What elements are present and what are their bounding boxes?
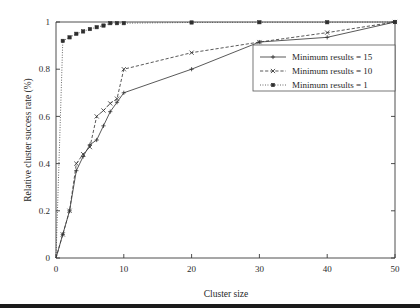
- data-marker-square: [102, 24, 105, 27]
- x-tick-label: 50: [391, 264, 401, 274]
- footer-band: [0, 304, 420, 308]
- x-tick-label: 30: [255, 264, 265, 274]
- y-tick-label: 0.2: [39, 206, 50, 216]
- data-marker-square: [326, 21, 329, 24]
- x-tick-label: 0: [54, 264, 59, 274]
- y-tick-label: 0.8: [39, 64, 51, 74]
- data-marker-square: [88, 27, 91, 30]
- data-marker-square: [75, 32, 78, 35]
- chart-legend: Minimum results = 15Minimum results = 10…: [253, 45, 395, 91]
- y-tick-label: 0: [46, 253, 51, 263]
- line-chart: 01020304050 00.20.40.60.81 Cluster size …: [0, 0, 420, 308]
- legend-label-2: Minimum results = 10: [292, 66, 373, 76]
- data-marker-square: [81, 30, 84, 33]
- y-axis-title: Relative cluster success rate (%): [23, 78, 34, 201]
- legend-label-3: Minimum results = 1: [292, 80, 368, 90]
- chart-figure: 01020304050 00.20.40.60.81 Cluster size …: [0, 0, 420, 308]
- x-tick-label: 20: [187, 264, 197, 274]
- data-marker-square: [95, 25, 98, 28]
- legend-label-1: Minimum results = 15: [292, 52, 373, 62]
- x-axis-title: Cluster size: [204, 289, 249, 299]
- data-marker-square: [122, 21, 125, 24]
- data-marker-square: [190, 21, 193, 24]
- data-marker-square: [393, 20, 396, 23]
- x-axis-ticks: 01020304050: [54, 254, 400, 274]
- y-tick-label: 1: [46, 17, 51, 27]
- data-marker-square: [271, 83, 274, 86]
- data-marker-square: [68, 36, 71, 39]
- series-markers-3: [61, 20, 397, 42]
- data-marker-square: [61, 39, 64, 42]
- y-tick-label: 0.4: [39, 159, 51, 169]
- legend-marker-3: [271, 83, 274, 86]
- data-marker-square: [258, 21, 261, 24]
- y-tick-label: 0.6: [39, 112, 51, 122]
- data-marker-square: [109, 21, 112, 24]
- x-tick-label: 10: [119, 264, 129, 274]
- x-tick-label: 40: [323, 264, 333, 274]
- data-marker-square: [115, 21, 118, 24]
